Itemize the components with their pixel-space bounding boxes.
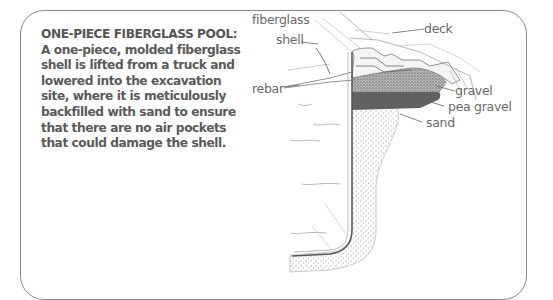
label-pea-gravel: pea gravel: [448, 99, 512, 114]
fiberglass-shell-wall: [292, 52, 352, 256]
label-gravel: gravel: [455, 83, 493, 98]
label-deck: deck: [424, 21, 454, 36]
label-rebar: rebar: [252, 81, 285, 96]
label-fiberglass: fiberglass: [252, 12, 310, 27]
water-ripples: [290, 104, 346, 250]
label-sand: sand: [426, 115, 455, 130]
label-shell: shell: [276, 32, 304, 47]
